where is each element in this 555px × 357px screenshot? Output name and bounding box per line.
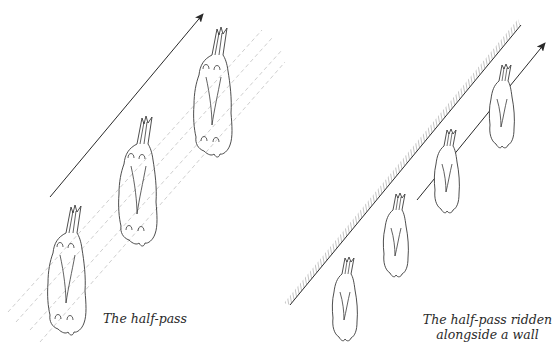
caption-half-pass: The half-pass: [103, 311, 193, 326]
caption-line-2: alongside a wall: [420, 327, 555, 342]
half-pass-diagram: [0, 0, 555, 357]
horse-4: [489, 64, 514, 148]
horse-3: [434, 129, 459, 213]
right-figure: [284, 19, 545, 341]
caption-half-pass-wall: The half-pass ridden alongside a wall: [420, 312, 555, 342]
left-figure: [8, 14, 285, 342]
arrow-up-right-icon: [50, 14, 203, 197]
horse-1: [332, 257, 357, 341]
caption-line-1: The half-pass ridden: [420, 312, 555, 327]
horse-1: [48, 205, 86, 335]
horse-3: [194, 27, 232, 157]
dashed-track-lines: [8, 30, 285, 342]
horse-2: [383, 193, 408, 277]
horse-2: [119, 116, 157, 246]
